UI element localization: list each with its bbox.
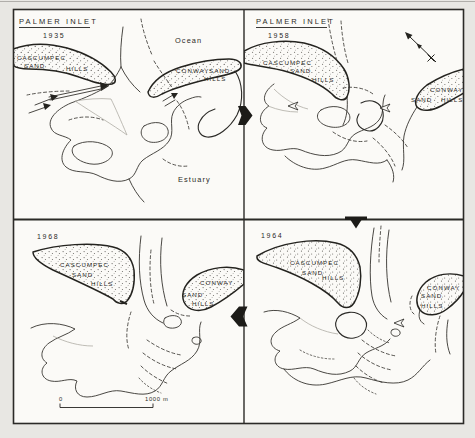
tidal-channel <box>387 230 391 302</box>
panel-year: 1968 <box>37 233 59 240</box>
panel-year: 1958 <box>268 32 290 39</box>
panel-year: 1964 <box>261 232 283 239</box>
svg-text:SAND: SAND <box>72 271 93 278</box>
svg-text:CONWAY: CONWAY <box>427 284 460 291</box>
svg-text:CONWAY: CONWAY <box>176 67 209 74</box>
svg-text:SAND: SAND <box>302 269 323 276</box>
dashed-shoal-line <box>362 340 396 356</box>
dashed-shoal-line <box>69 117 103 120</box>
dashed-channel-line <box>150 250 154 304</box>
svg-text:SAND: SAND <box>411 96 432 103</box>
map-panel-1964: 1964 CASCUMPEC SAND HILLS CONWAY SAND HI… <box>244 220 464 424</box>
svg-text:SAND: SAND <box>290 67 311 74</box>
svg-text:SAND: SAND <box>421 292 442 299</box>
svg-text:HILLS: HILLS <box>192 300 214 307</box>
panel-title: PALMER INLET <box>19 17 98 26</box>
scale-bar-distance-label: 1000 m <box>145 396 169 402</box>
dashed-shoal-line <box>141 19 152 55</box>
estuary-label: Estuary <box>178 175 211 184</box>
tidal-channel <box>121 27 123 67</box>
panel-title: PALMER INLET <box>256 17 335 26</box>
map-1968: 0 1000 m 1968 CASCUMPEC SAND HILLS CONWA… <box>13 220 244 424</box>
dashed-shoal-line <box>333 132 367 142</box>
svg-text:HILLS: HILLS <box>204 75 226 82</box>
dashed-shoal-line <box>139 378 161 393</box>
svg-text:HILLS: HILLS <box>66 65 88 72</box>
flow-arrow-icon <box>394 319 404 327</box>
dashed-shoal-line <box>300 350 334 359</box>
scale-bar: 0 1000 m <box>59 396 169 408</box>
map-1964: 1964 CASCUMPEC SAND HILLS CONWAY SAND HI… <box>244 220 464 424</box>
estuary-outline <box>31 322 201 397</box>
estuary-outline <box>387 160 394 182</box>
svg-text:HILLS: HILLS <box>312 76 334 83</box>
dashed-shoal-line <box>410 296 414 314</box>
estuary-outline <box>447 320 450 354</box>
dashed-channel-line <box>379 226 381 262</box>
svg-text:CASCUMPEC: CASCUMPEC <box>60 261 109 268</box>
estuary-outline <box>260 84 385 156</box>
estuary-outline <box>402 107 417 170</box>
svg-text:SAND: SAND <box>182 291 203 298</box>
svg-text:SAND: SAND <box>209 67 230 74</box>
tidal-channel <box>161 238 167 306</box>
faint-survey-line <box>75 101 127 135</box>
lagoon-outline <box>72 142 112 165</box>
scale-bar-zero-label: 0 <box>59 396 63 402</box>
map-panel-1935: PALMER INLET 1935 Ocean Estuary CASCUMPE… <box>13 9 244 220</box>
pond-outline <box>336 312 367 338</box>
flow-arrow-icon <box>380 104 390 112</box>
svg-text:CASCUMPEC: CASCUMPEC <box>17 54 66 61</box>
svg-text:HILLS: HILLS <box>421 302 443 309</box>
scale-bar-line <box>60 404 153 408</box>
north-arrow-icon <box>405 32 436 62</box>
svg-text:CONWAY: CONWAY <box>430 86 463 93</box>
dashed-shoal-line <box>368 330 390 343</box>
estuary-outline <box>264 310 390 374</box>
map-1935: PALMER INLET 1935 Ocean Estuary CASCUMPE… <box>13 9 244 220</box>
figure-page: { "figure": { "colors": { "page_bg": "#e… <box>0 0 475 438</box>
svg-text:CASCUMPEC: CASCUMPEC <box>290 259 339 266</box>
svg-text:HILLS: HILLS <box>91 280 113 287</box>
ocean-label: Ocean <box>175 36 202 45</box>
island-outline <box>164 316 182 329</box>
estuary-outline <box>129 179 144 202</box>
dashed-shoal-line <box>171 310 190 316</box>
svg-text:SAND: SAND <box>24 62 45 69</box>
tidal-channel <box>139 236 163 323</box>
svg-text:HILLS: HILLS <box>322 274 344 281</box>
svg-text:CONWAY: CONWAY <box>200 279 233 286</box>
faint-survey-line <box>75 99 111 101</box>
lagoon-outline <box>141 123 168 143</box>
conway-sand-spit <box>148 59 241 97</box>
dashed-channel-line <box>127 312 131 350</box>
dashed-shoal-line <box>147 340 181 355</box>
dashed-shoal-line <box>354 378 376 394</box>
tidal-channel <box>370 228 387 319</box>
dashed-shoal-line <box>356 366 384 383</box>
dashed-shoal-line <box>163 159 188 166</box>
dashed-shoal-line <box>143 353 177 369</box>
dashed-shoal-line <box>27 91 71 95</box>
dashed-shoal-line <box>435 316 440 354</box>
panel-year: 1935 <box>43 32 65 39</box>
svg-text:HILLS: HILLS <box>441 96 463 103</box>
dashed-shoal-line <box>141 366 169 384</box>
dashed-shoal-line <box>385 125 408 148</box>
island-outline <box>391 329 400 336</box>
map-panel-1958: PALMER INLET 1958 CASCUMPEC SAND HILLS C… <box>244 9 464 220</box>
svg-text:CASCUMPEC: CASCUMPEC <box>263 59 312 66</box>
map-panel-1968: 0 1000 m 1968 CASCUMPEC SAND HILLS CONWA… <box>13 220 244 424</box>
tidal-channel <box>121 67 140 92</box>
map-1958: PALMER INLET 1958 CASCUMPEC SAND HILLS C… <box>244 9 464 220</box>
faint-survey-line <box>300 318 338 334</box>
estuary-outline <box>50 85 201 181</box>
estuary-outline <box>285 156 387 169</box>
lagoon-outline <box>317 107 350 128</box>
dashed-channel-line <box>341 21 348 63</box>
